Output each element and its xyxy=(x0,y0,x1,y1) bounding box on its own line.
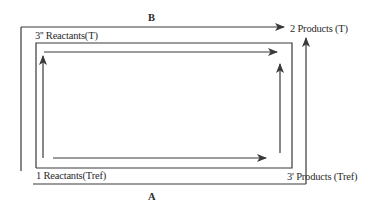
inner-arrows xyxy=(43,52,280,158)
path-b-lines xyxy=(21,27,284,171)
inner-rectangle xyxy=(36,43,292,168)
cycle-diagram: B A 3'' Reactants(T) 2 Products (T) 1 Re… xyxy=(0,0,377,209)
inner-frame xyxy=(36,43,292,168)
path-a-lines xyxy=(33,38,306,184)
state-2-products-label: 2 Products (T) xyxy=(290,24,348,35)
state-1-reactants-label: 1 Reactants(Tref) xyxy=(36,171,106,182)
path-b-label: B xyxy=(148,13,155,24)
state-3p-products-label: 3' Products (Tref) xyxy=(287,172,357,183)
state-3pp-reactants-label: 3'' Reactants(T) xyxy=(35,31,98,42)
path-a-label: A xyxy=(148,192,156,203)
